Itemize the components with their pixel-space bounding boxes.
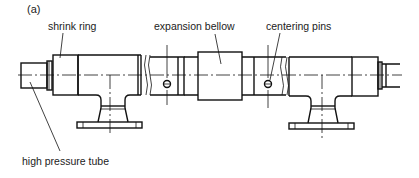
left-pipe-break (145, 55, 148, 95)
left-high-pressure-tube (21, 61, 52, 90)
leader-shrink-ring (60, 33, 63, 58)
label-high-pressure-tube: high pressure tube (22, 156, 109, 167)
label-centering-pins: centering pins (266, 21, 331, 32)
right-t-piece (289, 57, 354, 138)
label-shrink-ring: shrink ring (48, 21, 96, 32)
right-pipe-break (281, 57, 284, 95)
right-shrink-ring (352, 57, 378, 96)
panel-label: (a) (27, 4, 40, 15)
left-t-piece (77, 55, 142, 135)
label-expansion-bellow: expansion bellow (154, 21, 235, 32)
assembly-diagram: (a) shrink ring expansion bellow centeri… (0, 0, 419, 178)
right-centering-pin-section (254, 45, 272, 108)
right-high-pressure-tube (378, 62, 400, 89)
leader-expansion-bellow (215, 34, 221, 64)
leader-high-pressure-tube (30, 82, 60, 151)
